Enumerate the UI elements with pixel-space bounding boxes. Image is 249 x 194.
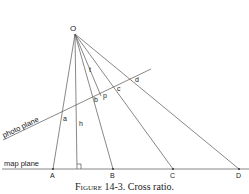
cross-ratio-diagram: O h t a b p c d A B C D photo plane map … [0, 0, 249, 194]
point-d-label: d [135, 76, 139, 83]
map-plane-label: map plane [4, 159, 39, 168]
point-D [238, 168, 240, 170]
ray-O-A [53, 34, 75, 169]
point-c-label: c [117, 85, 121, 92]
point-C-label: C [170, 172, 175, 179]
ray-O-C [75, 34, 173, 169]
point-C [172, 168, 174, 170]
point-A [52, 168, 54, 170]
t-label: t [89, 66, 91, 73]
point-B-label: B [110, 172, 115, 179]
apex-label: O [70, 24, 76, 33]
photo-plane-label: photo plane [1, 115, 40, 140]
figure-caption: Figure 14-3. Cross ratio. [0, 181, 249, 192]
caption-text: Cross ratio. [128, 181, 174, 192]
point-b-label: b [94, 96, 98, 103]
point-D-label: D [236, 172, 241, 179]
point-a-label: a [63, 115, 67, 122]
right-angle-mark [77, 164, 81, 169]
height-label: h [79, 120, 83, 127]
point-p-label: p [103, 92, 107, 100]
altitude-h [75, 34, 77, 169]
point-B [112, 168, 114, 170]
ray-O-D [75, 34, 239, 169]
point-A-label: A [50, 172, 55, 179]
figure-number: Figure 14-3. [75, 181, 125, 192]
